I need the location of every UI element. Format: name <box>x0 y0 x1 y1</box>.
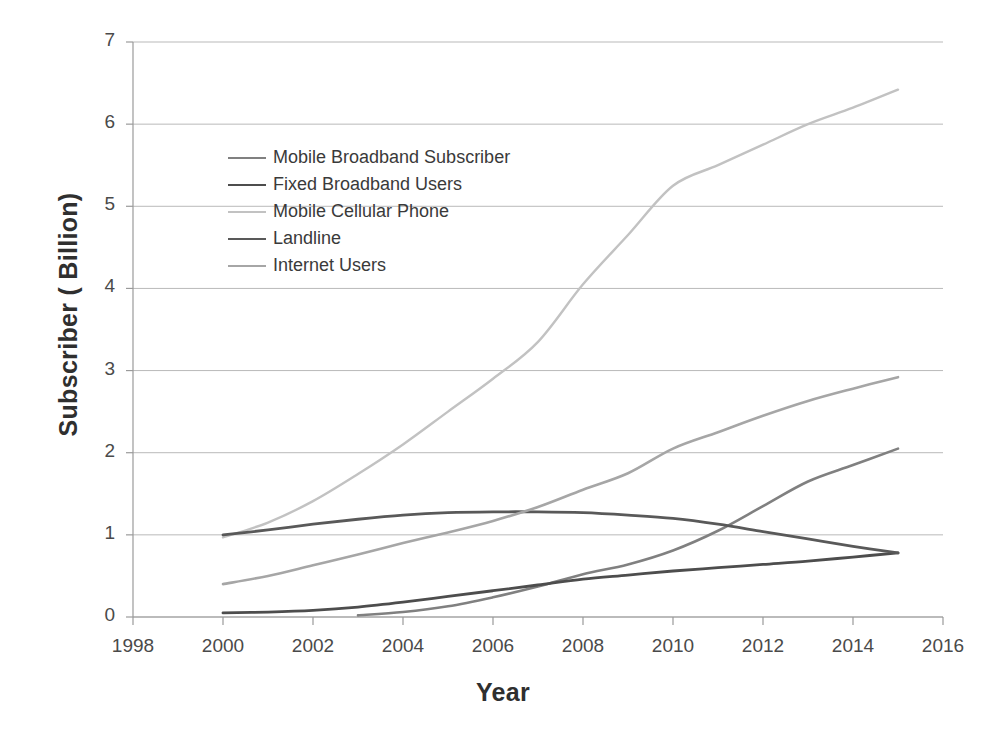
legend-label: Mobile Cellular Phone <box>273 201 449 222</box>
legend-item-1[interactable]: Fixed Broadband Users <box>228 171 510 198</box>
legend-label: Internet Users <box>273 255 386 276</box>
legend-item-4[interactable]: Internet Users <box>228 252 510 279</box>
chart-legend: Mobile Broadband SubscriberFixed Broadba… <box>228 144 510 279</box>
x-tick-label-2016: 2016 <box>898 635 988 657</box>
x-axis-title: Year <box>0 678 1006 707</box>
x-tick-label-2012: 2012 <box>718 635 808 657</box>
x-tick-label-2014: 2014 <box>808 635 898 657</box>
x-tick-label-2006: 2006 <box>448 635 538 657</box>
plot-canvas <box>0 0 1006 733</box>
legend-swatch-icon-2 <box>228 211 266 213</box>
tick-marks-group <box>126 42 943 625</box>
y-axis-title: Subscriber ( Billion) <box>54 155 83 475</box>
x-tick-label-2008: 2008 <box>538 635 628 657</box>
legend-label: Fixed Broadband Users <box>273 174 462 195</box>
x-tick-label-2010: 2010 <box>628 635 718 657</box>
legend-swatch-icon-4 <box>228 265 266 267</box>
series-line-4 <box>223 377 898 584</box>
legend-item-3[interactable]: Landline <box>228 225 510 252</box>
legend-item-2[interactable]: Mobile Cellular Phone <box>228 198 510 225</box>
legend-label: Mobile Broadband Subscriber <box>273 147 510 168</box>
y-tick-label-6: 6 <box>75 111 115 133</box>
series-line-3 <box>223 512 898 553</box>
legend-swatch-icon-1 <box>228 184 266 186</box>
x-tick-label-2004: 2004 <box>358 635 448 657</box>
x-tick-label-2000: 2000 <box>178 635 268 657</box>
line-chart: 76543210 1998200020022004200620082010201… <box>0 0 1006 733</box>
legend-swatch-icon-0 <box>228 157 266 159</box>
x-tick-label-2002: 2002 <box>268 635 358 657</box>
x-tick-label-1998: 1998 <box>88 635 178 657</box>
y-tick-label-7: 7 <box>75 29 115 51</box>
y-tick-label-1: 1 <box>75 522 115 544</box>
legend-item-0[interactable]: Mobile Broadband Subscriber <box>228 144 510 171</box>
legend-swatch-icon-3 <box>228 238 266 240</box>
y-tick-label-0: 0 <box>75 604 115 626</box>
legend-label: Landline <box>273 228 341 249</box>
